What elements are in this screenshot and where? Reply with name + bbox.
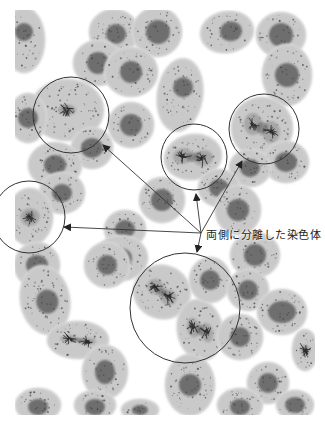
nucleus xyxy=(230,327,250,347)
pointer-arrow xyxy=(196,194,201,233)
nucleus xyxy=(268,301,296,323)
cell xyxy=(189,257,232,304)
cell xyxy=(3,7,46,74)
nucleus xyxy=(52,184,72,202)
cell xyxy=(9,93,48,144)
cell xyxy=(217,388,264,423)
nucleus xyxy=(106,24,126,44)
cell xyxy=(15,388,62,423)
annotation-label: 両側に分離した染色体 xyxy=(206,226,321,242)
cell xyxy=(108,102,155,149)
nucleus xyxy=(18,108,38,128)
micrograph-figure: 両側に分離した染色体 xyxy=(0,0,325,425)
nucleus xyxy=(85,399,105,415)
cells-layer xyxy=(3,6,319,422)
nucleus xyxy=(97,255,117,275)
nucleus xyxy=(275,152,297,172)
cell xyxy=(276,390,315,421)
micrograph-canvas xyxy=(0,0,325,425)
nucleus xyxy=(28,399,48,415)
nucleus xyxy=(179,374,201,396)
nucleus xyxy=(258,373,278,393)
nucleus xyxy=(120,61,142,83)
cell xyxy=(7,188,54,247)
nucleus xyxy=(200,270,220,290)
cell xyxy=(257,289,308,336)
cell xyxy=(262,44,313,107)
cell xyxy=(292,329,319,372)
nucleus xyxy=(146,20,170,44)
nucleus xyxy=(275,63,299,87)
nucleus xyxy=(238,280,258,300)
cell xyxy=(121,399,160,422)
nucleus xyxy=(81,138,103,158)
cell xyxy=(84,242,131,289)
nucleus xyxy=(120,114,142,136)
nucleus xyxy=(244,244,266,266)
nucleus xyxy=(269,23,293,47)
cell xyxy=(152,55,209,136)
pointer-arrow xyxy=(197,233,201,252)
cell xyxy=(217,314,264,361)
cell xyxy=(104,47,159,98)
nucleus xyxy=(227,199,249,221)
nucleus xyxy=(285,397,305,413)
nucleus xyxy=(230,399,250,415)
cell xyxy=(74,390,117,421)
nucleus xyxy=(151,189,173,211)
cell xyxy=(196,6,258,58)
